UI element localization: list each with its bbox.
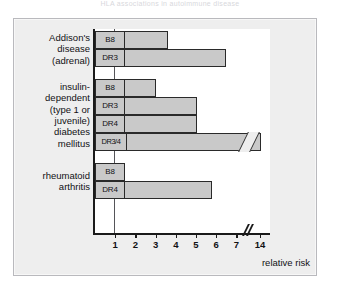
bar-row: B8: [95, 79, 275, 97]
x-tick-label: 7: [226, 239, 246, 250]
x-tick: [176, 233, 177, 238]
x-tick-label: 6: [206, 239, 226, 250]
bar-series-label: DR3: [95, 49, 125, 67]
bar-series-label: B8: [95, 79, 125, 97]
bar-row: B8: [95, 163, 275, 181]
x-tick: [236, 233, 237, 238]
bar-series-label: B8: [95, 31, 125, 49]
x-tick: [135, 233, 136, 238]
bar-series-label: DR3: [95, 97, 125, 115]
bar-row: DR3: [95, 49, 275, 67]
bar-row: DR3/4: [95, 133, 275, 151]
bar-row: DR3: [95, 97, 275, 115]
x-axis-title: relative risk: [164, 257, 310, 268]
x-tick: [115, 233, 116, 238]
category-label: rheumatoid arthritis: [0, 170, 90, 193]
x-tick: [260, 233, 261, 238]
x-tick-label: 3: [146, 239, 166, 250]
figure-page: HLA associations in autoimmune disease B…: [0, 0, 339, 285]
bar-row: DR4: [95, 181, 275, 199]
bar-series-label: DR3/4: [95, 133, 127, 151]
x-tick-label: 14: [250, 239, 270, 250]
x-tick: [216, 233, 217, 238]
bar-chart-plot: B8DR3Addison's disease (adrenal)B8DR3DR4…: [14, 19, 318, 277]
bar-series-label: DR4: [95, 181, 125, 199]
x-axis-break-icon: [242, 224, 256, 236]
x-tick-label: 2: [125, 239, 145, 250]
x-tick-label: 1: [105, 239, 125, 250]
bar-row: B8: [95, 31, 275, 49]
x-tick: [196, 233, 197, 238]
bar-row: DR4: [95, 115, 275, 133]
category-label: Addison's disease (adrenal): [0, 32, 90, 66]
x-tick: [156, 233, 157, 238]
bar-series-label: B8: [95, 163, 125, 181]
x-tick-label: 4: [166, 239, 186, 250]
bar-series-label: DR4: [95, 115, 125, 133]
clipped-top-caption: HLA associations in autoimmune disease: [55, 0, 285, 8]
category-label: insulin- dependent (type 1 or juvenile) …: [0, 81, 90, 149]
figure-panel: B8DR3Addison's disease (adrenal)B8DR3DR4…: [13, 18, 317, 276]
x-tick-label: 5: [186, 239, 206, 250]
